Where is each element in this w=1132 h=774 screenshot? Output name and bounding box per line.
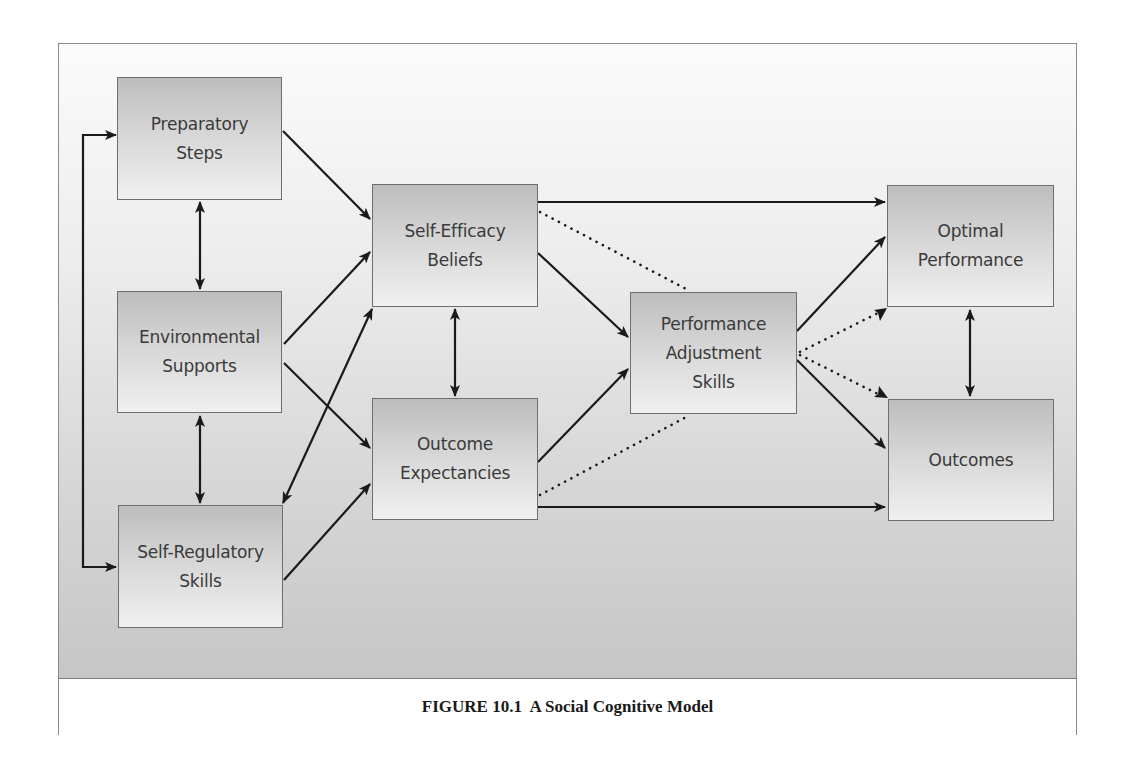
node-label: Outcome Expectancies	[400, 430, 510, 488]
node-self-efficacy-beliefs: Self-Efficacy Beliefs	[372, 184, 538, 307]
node-optimal-performance: Optimal Performance	[887, 185, 1054, 307]
node-outcome-expectancies: Outcome Expectancies	[372, 398, 538, 520]
node-self-regulatory-skills: Self-Regulatory Skills	[118, 505, 283, 628]
node-label: Optimal Performance	[918, 217, 1024, 275]
node-performance-adjustment-skills: Performance Adjustment Skills	[630, 292, 797, 414]
figure-caption: FIGURE 10.1 A Social Cognitive Model	[422, 697, 713, 717]
node-outcomes: Outcomes	[888, 399, 1054, 521]
node-label: Self-Regulatory Skills	[137, 538, 264, 596]
node-preparatory-steps: Preparatory Steps	[117, 77, 282, 200]
caption-band: FIGURE 10.1 A Social Cognitive Model	[59, 679, 1076, 735]
node-label: Preparatory Steps	[151, 110, 249, 168]
node-environmental-supports: Environmental Supports	[117, 291, 282, 413]
node-label: Outcomes	[929, 446, 1014, 475]
node-label: Environmental Supports	[139, 323, 260, 381]
node-label: Performance Adjustment Skills	[661, 310, 767, 397]
node-label: Self-Efficacy Beliefs	[404, 217, 505, 275]
